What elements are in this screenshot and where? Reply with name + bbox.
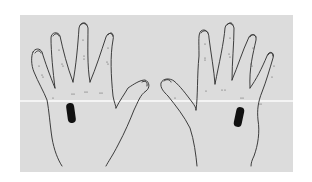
palm-marker-right [233, 106, 245, 127]
hands-illustration [0, 0, 312, 182]
finger-annotations [38, 37, 274, 104]
left-hand [32, 23, 149, 166]
palm-marker-left [66, 103, 77, 124]
right-hand [161, 23, 274, 166]
